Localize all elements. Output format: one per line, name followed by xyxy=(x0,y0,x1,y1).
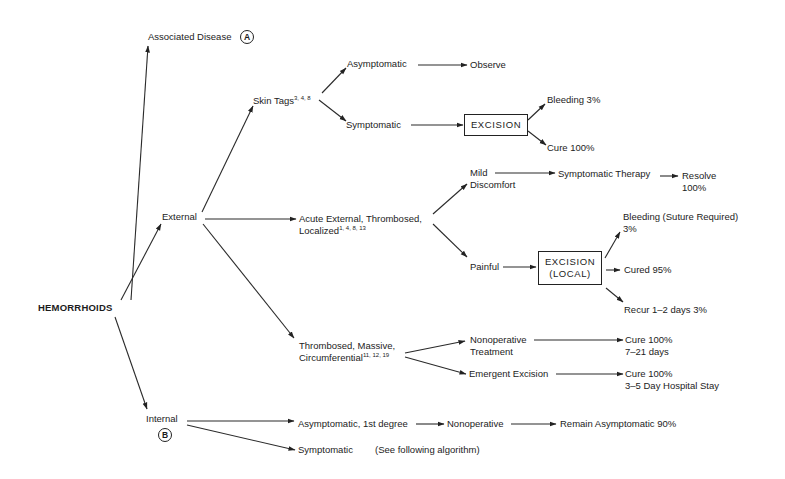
outcome-cured-95: Cured 95% xyxy=(624,264,672,276)
outcome-emergent-cure: Cure 100% 3–5 Day Hospital Stay xyxy=(625,368,719,392)
outcome-cure-100: Cure 100% xyxy=(547,142,595,154)
resolve-line1: Resolve xyxy=(682,170,716,182)
node-associated-disease: Associated Disease xyxy=(148,31,231,43)
massive-line1: Thrombosed, Massive, xyxy=(299,340,395,352)
nonop-cure-line1: Cure 100% xyxy=(625,334,673,346)
connector-arrows xyxy=(0,0,785,479)
skin-tags-label: Skin Tags xyxy=(253,95,294,106)
marker-a-icon: A xyxy=(240,30,254,44)
emergent-cure-line2: 3–5 Day Hospital Stay xyxy=(625,380,719,392)
excision-local-line1: EXCISION xyxy=(545,256,595,268)
outcome-nonop-cure: Cure 100% 7–21 days xyxy=(625,334,673,358)
node-internal: Internal xyxy=(146,413,178,425)
node-symptomatic-therapy: Symptomatic Therapy xyxy=(558,168,650,180)
excision-local-line2: (LOCAL) xyxy=(549,268,591,280)
node-nonoperative-treatment: Nonoperative Treatment xyxy=(470,334,527,358)
outcome-bleeding-suture: Bleeding (Suture Required) 3% xyxy=(623,211,738,235)
node-mild-discomfort: Mild Discomfort xyxy=(470,167,515,191)
nonop-line2: Treatment xyxy=(470,346,527,358)
mild-line2: Discomfort xyxy=(470,179,515,191)
root-node-hemorrhoids: HEMORRHOIDS xyxy=(38,302,113,314)
marker-b-icon: B xyxy=(158,428,172,442)
acute-refs: 1, 4, 8, 13 xyxy=(339,225,366,231)
mild-line1: Mild xyxy=(470,167,515,179)
node-internal-nonoperative: Nonoperative xyxy=(447,418,504,430)
node-internal-asymptomatic: Asymptomatic, 1st degree xyxy=(298,418,408,430)
outcome-remain-asymptomatic: Remain Asymptomatic 90% xyxy=(560,418,676,430)
outcome-resolve: Resolve 100% xyxy=(682,170,716,194)
skin-tags-refs: 3, 4, 8 xyxy=(294,95,311,101)
bleeding-suture-line2: 3% xyxy=(623,223,738,235)
nonop-line1: Nonoperative xyxy=(470,334,527,346)
emergent-cure-line1: Cure 100% xyxy=(625,368,719,380)
node-thrombosed-massive: Thrombosed, Massive, Circumferential11, … xyxy=(299,340,395,364)
procedure-excision-box: EXCISION xyxy=(464,114,528,136)
outcome-observe: Observe xyxy=(470,59,506,71)
procedure-excision-label: EXCISION xyxy=(471,119,521,131)
outcome-bleeding-3: Bleeding 3% xyxy=(547,94,600,106)
node-painful: Painful xyxy=(470,261,499,273)
node-skin-tags-symptomatic: Symptomatic xyxy=(346,119,401,131)
resolve-line2: 100% xyxy=(682,182,716,194)
acute-label-line1: Acute External, Thrombosed, xyxy=(299,213,422,225)
node-acute-external: Acute External, Thrombosed, Localized1, … xyxy=(299,213,422,237)
node-emergent-excision: Emergent Excision xyxy=(469,368,548,380)
acute-label-line2: Localized xyxy=(299,225,339,236)
procedure-excision-local-box: EXCISION (LOCAL) xyxy=(538,251,602,285)
outcome-recur: Recur 1–2 days 3% xyxy=(624,304,707,316)
nonop-cure-line2: 7–21 days xyxy=(625,346,673,358)
bleeding-suture-line1: Bleeding (Suture Required) xyxy=(623,211,738,223)
node-internal-symptomatic: Symptomatic xyxy=(298,444,353,456)
massive-line2: Circumferential xyxy=(299,352,363,363)
node-skin-tags-asymptomatic: Asymptomatic xyxy=(347,58,407,70)
note-see-following-algorithm: (See following algorithm) xyxy=(375,444,480,456)
massive-refs: 11, 12, 19 xyxy=(363,352,389,358)
node-external: External xyxy=(162,211,197,223)
node-skin-tags: Skin Tags3, 4, 8 xyxy=(253,95,311,107)
